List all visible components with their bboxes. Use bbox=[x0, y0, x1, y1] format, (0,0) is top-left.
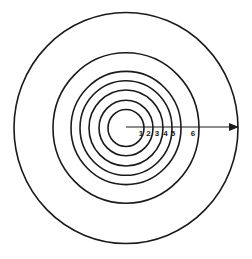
concentric-circles-diagram: 123456 bbox=[0, 0, 252, 259]
ring-3 bbox=[89, 90, 163, 166]
ring-label-3: 3 bbox=[155, 129, 160, 138]
ring-7 bbox=[14, 13, 238, 244]
rings-group bbox=[14, 13, 238, 244]
ring-5 bbox=[71, 71, 181, 184]
ring-2 bbox=[99, 100, 153, 156]
ring-label-5: 5 bbox=[171, 129, 176, 138]
ring-label-1: 1 bbox=[139, 129, 144, 138]
ring-4 bbox=[80, 81, 172, 176]
ring-label-2: 2 bbox=[146, 129, 151, 138]
ring-label-4: 4 bbox=[163, 129, 168, 138]
ring-labels-group: 123456 bbox=[139, 129, 196, 138]
ring-6 bbox=[53, 53, 199, 203]
ring-label-6: 6 bbox=[191, 129, 196, 138]
ring-1 bbox=[108, 110, 144, 147]
